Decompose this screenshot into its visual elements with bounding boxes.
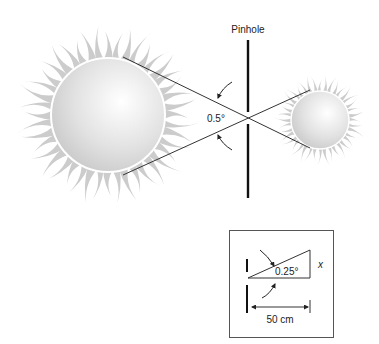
inset-distance-label: 50 cm bbox=[266, 314, 293, 325]
pinhole-diagram: Pinhole 0.5° 0.25° x 50 cm bbox=[0, 0, 379, 344]
small-sun-icon bbox=[274, 74, 366, 166]
pinhole-label: Pinhole bbox=[231, 24, 265, 35]
inset-height-label: x bbox=[317, 259, 324, 270]
angle-label: 0.5° bbox=[207, 113, 225, 124]
inset-angle-label: 0.25° bbox=[275, 266, 298, 277]
large-sun-icon bbox=[16, 21, 201, 208]
